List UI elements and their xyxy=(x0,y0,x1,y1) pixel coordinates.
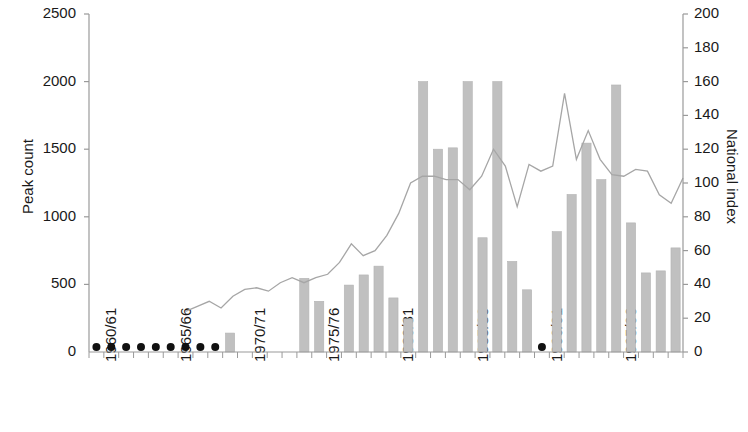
bar xyxy=(419,82,428,352)
bar xyxy=(597,180,606,352)
bar xyxy=(374,266,383,352)
bar xyxy=(389,298,398,352)
bar xyxy=(463,82,472,352)
bar xyxy=(656,271,665,352)
chart-container: Peak count National index 05001000150020… xyxy=(0,0,748,432)
axis-lines xyxy=(89,14,683,352)
zero-marker-dot xyxy=(167,343,175,351)
bar xyxy=(508,261,517,352)
zero-marker-dot xyxy=(211,343,219,351)
bar xyxy=(671,248,680,352)
bar xyxy=(448,148,457,352)
bar xyxy=(582,143,591,352)
zero-marker-dot xyxy=(122,343,130,351)
bar xyxy=(433,149,442,352)
zero-marker-dot xyxy=(182,343,190,351)
bar xyxy=(552,232,561,352)
bar xyxy=(359,275,368,352)
bar xyxy=(522,290,531,352)
bar xyxy=(567,194,576,352)
zero-marker-dot xyxy=(196,343,204,351)
zero-marker-dot xyxy=(137,343,145,351)
bar xyxy=(344,285,353,352)
bar xyxy=(641,273,650,352)
bar-series xyxy=(225,82,680,352)
zero-marker-dot xyxy=(107,343,115,351)
zero-marker-dot xyxy=(152,343,160,351)
bar xyxy=(493,82,502,352)
bar xyxy=(612,85,621,352)
bar xyxy=(404,319,413,352)
bar xyxy=(478,238,487,352)
plot-area xyxy=(0,0,748,432)
bar xyxy=(225,333,234,352)
zero-marker-dot xyxy=(92,343,100,351)
bar xyxy=(300,278,309,352)
bar xyxy=(626,223,635,352)
bar xyxy=(315,301,324,352)
zero-marker-dot xyxy=(538,343,546,351)
